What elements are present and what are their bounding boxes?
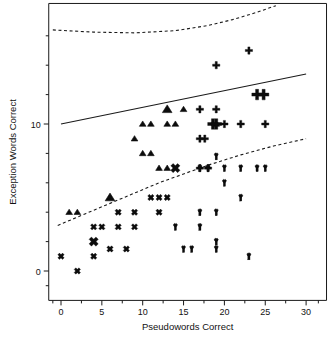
x-tick-label: 15 (179, 307, 189, 317)
x-tick-label: 10 (138, 307, 148, 317)
x-tick-label: 20 (219, 307, 229, 317)
x-axis-title: Pseudowords Correct (142, 321, 234, 332)
y-axis-title: Exception Words Correct (7, 99, 18, 205)
x-tick-label: 5 (99, 307, 104, 317)
x-tick-label: 0 (58, 307, 63, 317)
scatter-plot-figure: 051015202530 010 Pseudowords Correct Exc… (0, 0, 331, 341)
x-tick-label: 30 (301, 307, 311, 317)
x-tick-label: 25 (260, 307, 270, 317)
y-tick-label: 10 (31, 120, 41, 130)
y-tick-label: 0 (36, 267, 41, 277)
plot-canvas: 051015202530 010 Pseudowords Correct Exc… (0, 0, 331, 341)
